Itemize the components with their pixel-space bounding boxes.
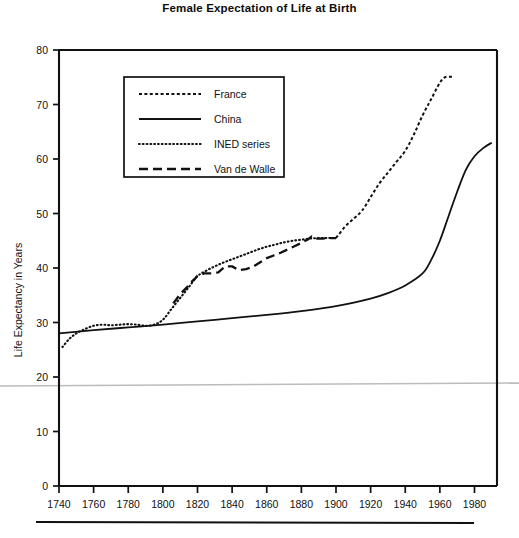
chart-figure: Female Expectation of Life at Birth 0102…: [0, 0, 519, 538]
legend-box: [124, 77, 284, 177]
chart-legend: FranceChinaINED seriesVan de Walle: [124, 77, 284, 177]
legend-label-france: France: [214, 88, 247, 100]
x-tick-label: 1880: [290, 498, 314, 510]
x-tick-label: 1920: [359, 498, 383, 510]
x-tick-label: 1980: [463, 498, 487, 510]
x-tick-label: 1780: [117, 498, 141, 510]
x-tick-label: 1740: [47, 498, 71, 510]
x-axis-ticks: 1740176017801800182018401860188019001920…: [47, 486, 486, 510]
y-tick-label: 40: [36, 262, 48, 274]
footer-rule: [36, 522, 474, 523]
y-tick-label: 80: [36, 44, 48, 56]
chart-plot-area: 01020304050607080 1740176017801800182018…: [0, 0, 519, 538]
x-tick-label: 1860: [255, 498, 279, 510]
y-axis-ticks: 01020304050607080: [36, 44, 59, 492]
x-tick-label: 1960: [428, 498, 452, 510]
y-tick-label: 20: [36, 371, 48, 383]
scan-artifact-line: [0, 383, 519, 386]
y-tick-label: 50: [36, 208, 48, 220]
series-line-france: [336, 77, 452, 238]
series-line-van-de-walle: [173, 236, 336, 303]
legend-label-van-de-walle: Van de Walle: [214, 163, 275, 175]
x-tick-label: 1800: [151, 498, 175, 510]
y-tick-label: 70: [36, 99, 48, 111]
y-axis-title: Life Expectancy in Years: [12, 243, 24, 357]
y-tick-label: 30: [36, 317, 48, 329]
x-tick-label: 1900: [324, 498, 348, 510]
x-tick-label: 1840: [220, 498, 244, 510]
x-tick-label: 1940: [394, 498, 418, 510]
x-tick-label: 1820: [186, 498, 210, 510]
series-line-ined-series: [62, 238, 336, 347]
y-tick-label: 10: [36, 426, 48, 438]
y-tick-label: 0: [42, 480, 48, 492]
x-tick-label: 1760: [82, 498, 106, 510]
legend-label-china: China: [214, 113, 242, 125]
legend-label-ined-series: INED series: [214, 138, 270, 150]
y-tick-label: 60: [36, 153, 48, 165]
